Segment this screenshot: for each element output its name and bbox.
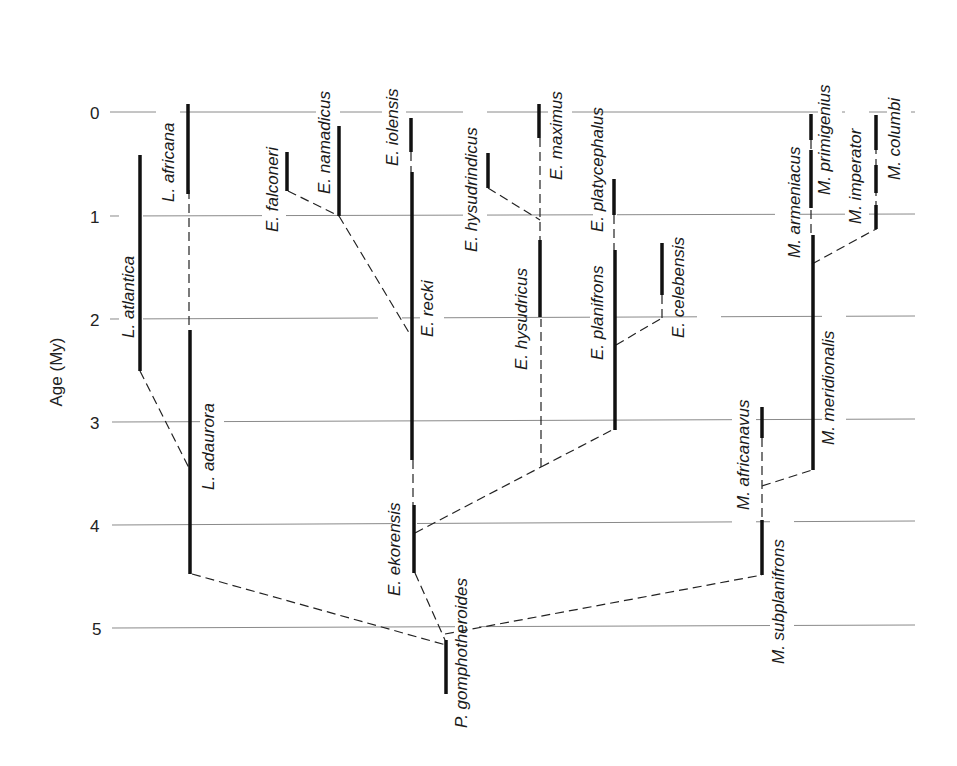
label-l-atlantica: L. atlantica [119, 256, 138, 338]
label-e-celebensis: E. celebensis [669, 236, 688, 338]
label-e-falconeri: E. falconeri [263, 146, 282, 232]
label-e-ekorensis: E. ekorensis [385, 502, 404, 596]
range-bars [140, 104, 876, 694]
label-e-hysudricus: E. hysudricus [512, 267, 531, 370]
label-e-iolensis: E. iolensis [383, 88, 402, 166]
label-m-imperator: M. imperator [846, 127, 865, 224]
label-e-recki: E. recki [418, 279, 437, 337]
label-m-columbi: M. columbi [885, 97, 904, 180]
label-m-africanavus: M. africanavus [734, 399, 753, 510]
gridline-4 [112, 521, 915, 525]
label-m-subplanifrons: M. subplanifrons [769, 539, 788, 664]
y-axis-ticks: 0 1 2 3 4 5 [90, 104, 101, 639]
tick-2: 2 [90, 311, 99, 330]
tick-1: 1 [90, 208, 99, 227]
tick-4: 4 [90, 517, 99, 536]
label-e-platycephalus: E. platycephalus [588, 107, 607, 232]
label-e-planifrons: E. planifrons [588, 265, 607, 360]
tick-0: 0 [90, 104, 99, 123]
label-e-hysudrindicus: E. hysudrindicus [462, 127, 481, 252]
tick-3: 3 [90, 414, 99, 433]
label-e-maximus: E. maximus [547, 91, 566, 180]
label-l-africana: L. africana [159, 123, 178, 202]
tick-5: 5 [92, 620, 101, 639]
label-l-adaurora: L. adaurora [199, 403, 218, 490]
gridline-5 [112, 625, 915, 628]
label-p-gomphotheroides: P. gomphotheroides [452, 578, 471, 728]
label-m-primigenius: M. primigenius [815, 84, 834, 195]
species-labels: L. atlantica L. africana L. adaurora E. … [119, 84, 904, 728]
label-e-namadicus: E. namadicus [315, 91, 334, 194]
label-m-armeniacus: M. armeniacus [785, 146, 804, 258]
phylogeny-diagram: 0 1 2 3 4 5 Age (My) [0, 0, 957, 766]
label-m-meridionalis: M. meridionalis [819, 330, 838, 445]
gridline-3 [112, 419, 915, 422]
y-axis-label: Age (My) [47, 338, 66, 407]
